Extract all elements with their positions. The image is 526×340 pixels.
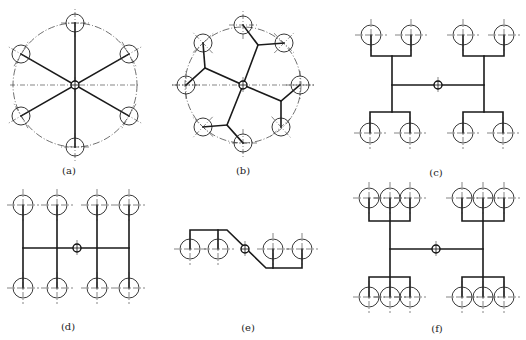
hub-icon [241, 241, 249, 257]
outlet-circle-icon [117, 42, 141, 66]
panel-label-b: (b) [236, 165, 250, 176]
panel-f [353, 182, 520, 313]
pipe-branch [463, 112, 503, 133]
panel-label-f: (f) [431, 323, 443, 334]
pipe-branch [203, 125, 227, 127]
hub-icon [73, 240, 81, 256]
pipe-branch [463, 35, 504, 56]
panel-label-a: (a) [62, 165, 76, 176]
hub-icon [434, 77, 442, 93]
outlet-circle-icon [9, 42, 33, 66]
hub-icon [432, 241, 440, 257]
layout-diagrams [0, 0, 526, 340]
outlet-circle-icon [61, 133, 89, 161]
pipe-branch [370, 112, 410, 133]
outlet-circle-icon [117, 104, 141, 128]
panel-b [172, 11, 314, 157]
panel-label-d: (d) [61, 321, 75, 332]
pipe-branch [371, 35, 411, 56]
pipe-branch [258, 43, 284, 45]
hub-icon [71, 77, 79, 93]
figure-canvas: (a) (b) (c) (d) (e) (f) [0, 0, 526, 340]
panel-label-e: (e) [241, 322, 255, 333]
outlet-circle-icon [286, 71, 314, 99]
panel-a [9, 9, 141, 161]
outlet-circle-icon [229, 129, 257, 157]
outlet-circle-icon [9, 104, 33, 128]
panel-d [7, 189, 145, 304]
panel-label-c: (c) [429, 167, 442, 178]
outlet-circle-icon [229, 11, 257, 39]
panel-c [354, 19, 520, 149]
panel-e [174, 230, 318, 268]
pipe-branch [203, 43, 205, 68]
outlet-circle-icon [61, 9, 89, 37]
